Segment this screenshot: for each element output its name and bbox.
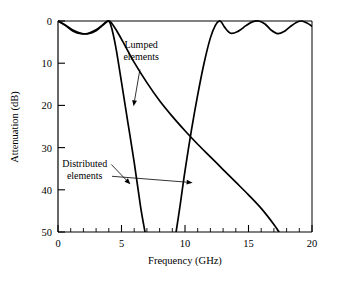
y-tick-label: 10 — [42, 58, 53, 69]
annotation-label-line-1: Distributed — [62, 158, 107, 169]
annotation-label-line-2: elements — [67, 170, 103, 181]
annotation-label-line-2: elements — [123, 51, 159, 62]
chart-background — [0, 0, 346, 281]
annotation-label-line-1: Lumped — [125, 39, 158, 50]
chart-svg: 05101520 01020304050 Lumped elementsDist… — [0, 0, 346, 281]
y-tick-label: 20 — [42, 100, 53, 111]
y-axis-title: Attenuation (dB) — [9, 91, 21, 163]
y-tick-label: 30 — [42, 143, 53, 154]
x-axis-title: Frequency (GHz) — [148, 255, 222, 267]
attenuation-vs-frequency-chart: 05101520 01020304050 Lumped elementsDist… — [0, 0, 346, 281]
x-tick-label: 20 — [307, 238, 318, 249]
y-tick-label: 50 — [42, 227, 53, 238]
x-tick-label: 10 — [180, 238, 191, 249]
y-tick-label: 0 — [47, 16, 52, 27]
y-tick-label: 40 — [42, 185, 53, 196]
x-tick-label: 15 — [243, 238, 254, 249]
x-tick-label: 5 — [119, 238, 124, 249]
x-tick-label: 0 — [55, 238, 60, 249]
